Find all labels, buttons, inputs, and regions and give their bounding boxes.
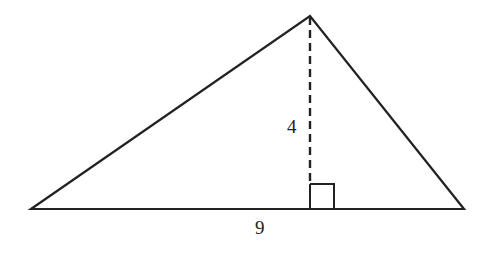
triangle — [31, 16, 464, 209]
height-label: 4 — [287, 116, 297, 137]
base-label: 9 — [255, 217, 265, 238]
right-angle-marker — [310, 184, 334, 209]
triangle-diagram: 4 9 — [0, 0, 483, 253]
